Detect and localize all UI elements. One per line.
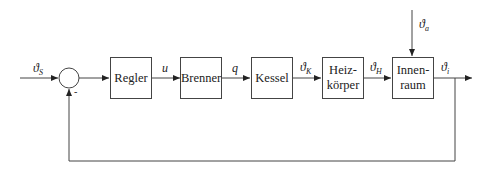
block-heizkoerper: Heiz- körper [322,57,364,99]
summing-junction [59,68,79,88]
block-kessel: Kessel [251,57,293,99]
feedback-minus-sign: - [74,86,77,97]
block-regler: Regler [110,57,152,99]
block-heizkoerper-label-2: körper [327,78,360,93]
block-kessel-label: Kessel [255,71,288,86]
block-heizkoerper-label-1: Heiz- [329,63,357,78]
signal-setpoint-label: ϑS [33,61,43,77]
signal-theta-a-label: ϑa [419,17,429,33]
block-innenraum: Innen- raum [392,57,434,99]
block-innenraum-label-2: raum [400,78,426,93]
block-regler-label: Regler [114,71,147,86]
block-brenner-label: Brenner [181,71,221,86]
block-brenner: Brenner [180,57,222,99]
signal-u-label: u [162,61,168,76]
block-innenraum-label-1: Innen- [397,63,430,78]
signal-theta-k-label: ϑK [300,60,311,76]
signal-theta-i-label: ϑi [441,60,449,76]
signal-theta-h-label: ϑH [370,60,382,76]
signal-q-label: q [232,61,238,76]
